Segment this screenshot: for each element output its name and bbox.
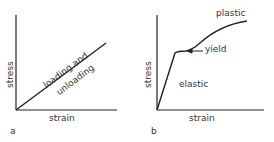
panel-a-label: a xyxy=(10,127,16,136)
panel-b-xlabel: strain xyxy=(189,114,215,123)
panel-a-xlabel: strain xyxy=(49,114,75,123)
panel-b-region-elastic: elastic xyxy=(179,80,208,89)
panel-b-ylabel: stress xyxy=(144,61,153,88)
diagram-canvas xyxy=(0,0,274,142)
panel-a-ylabel: stress xyxy=(6,61,15,88)
yield-arrow-icon xyxy=(187,49,203,53)
panel-b-axes xyxy=(157,15,264,110)
panel-b-stress-strain-curve xyxy=(157,21,247,110)
panel-b-annotation-yield: yield xyxy=(205,45,227,54)
panel-b-label: b xyxy=(151,127,157,136)
panel-b-region-plastic: plastic xyxy=(216,9,245,18)
